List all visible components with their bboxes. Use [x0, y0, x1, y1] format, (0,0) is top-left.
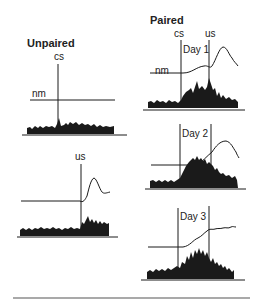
group-title-paired: Paired	[150, 14, 184, 26]
histogram	[147, 248, 234, 279]
baseline-label-nm: nm	[32, 88, 46, 99]
event-label-us: us	[75, 151, 86, 162]
histogram	[20, 216, 109, 236]
group-title-unpaired: Unpaired	[27, 37, 75, 49]
panel-unpaired-cs: Unpaired cs nm	[22, 37, 127, 135]
day-label: Day 2	[182, 128, 209, 139]
membrane-trace	[148, 227, 236, 247]
panel-paired-day3: Day 3	[141, 206, 245, 280]
histogram	[150, 156, 238, 188]
histogram	[148, 78, 238, 108]
day-label: Day 3	[180, 211, 207, 222]
panel-paired-day1: Day 1 nm	[143, 40, 245, 110]
histogram	[27, 118, 114, 134]
event-label-cs: cs	[174, 28, 184, 39]
day-label: Day 1	[183, 44, 210, 55]
event-label-cs: cs	[54, 51, 64, 62]
panel-paired-day2: Day 2	[145, 124, 246, 189]
membrane-trace	[21, 178, 110, 202]
baseline-label-nm: nm	[155, 65, 169, 76]
panel-unpaired-us: us	[17, 151, 118, 237]
event-label-us: us	[205, 28, 216, 39]
figure-canvas: Unpaired cs nm us Paired cs us Day 1 nm …	[0, 0, 262, 300]
